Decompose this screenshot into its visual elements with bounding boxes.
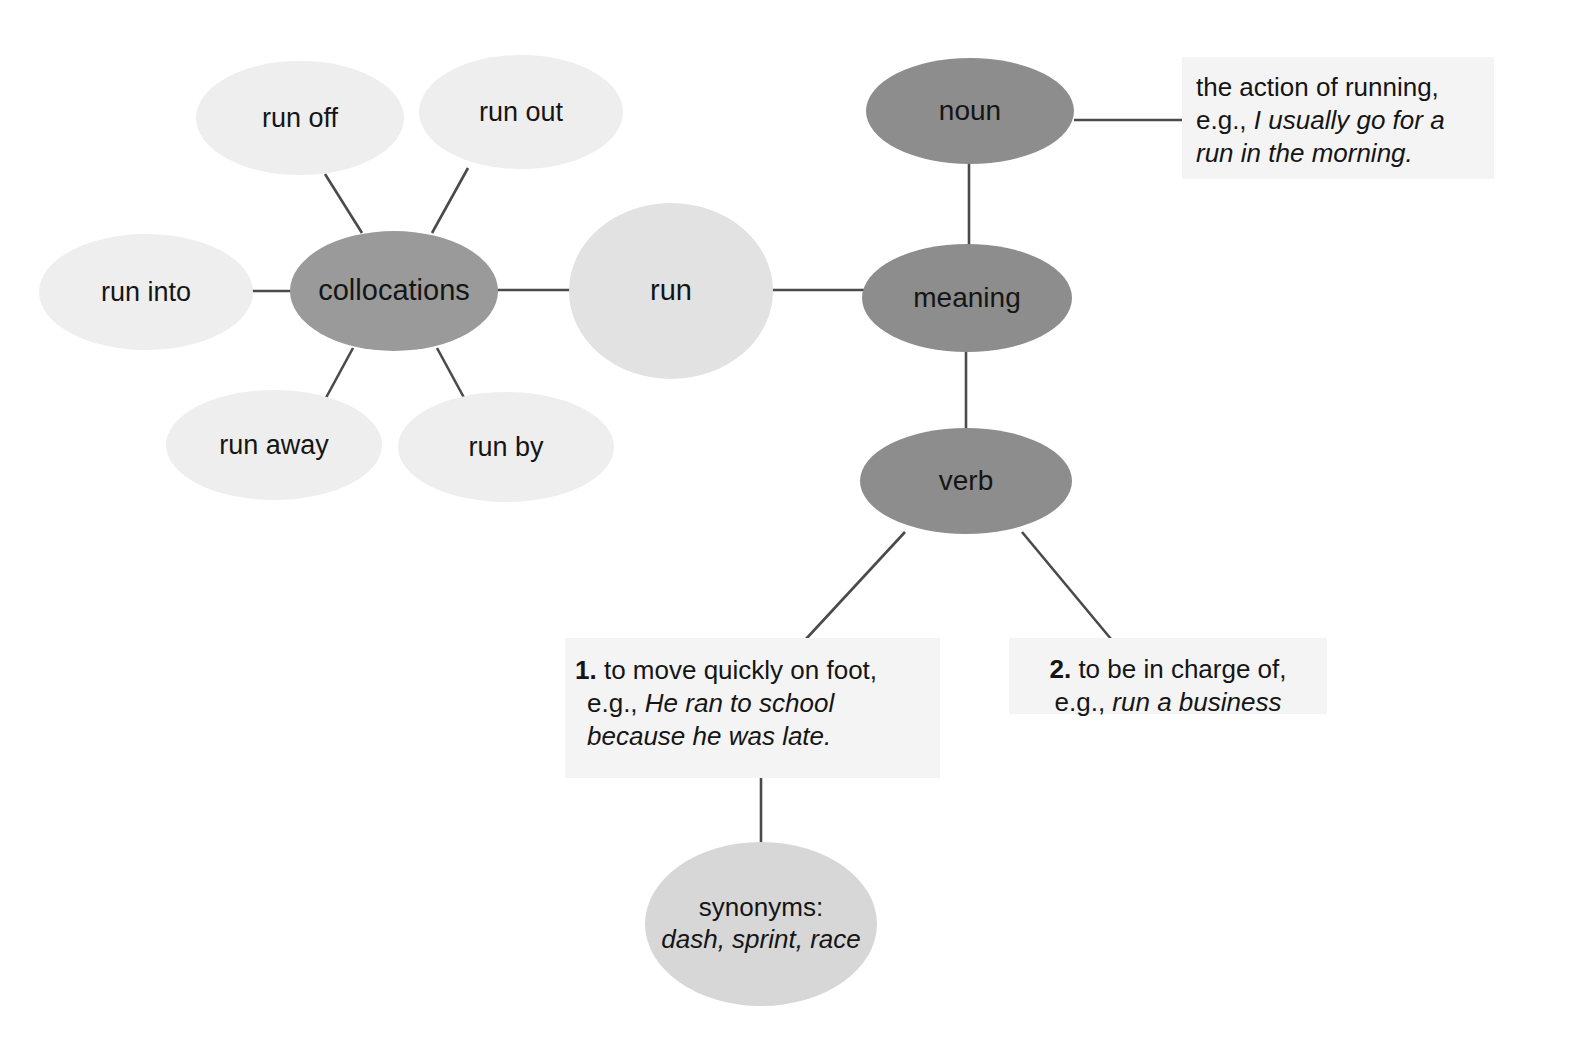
node-run-away-label: run away [213, 429, 335, 462]
edge-collocations-run-out [432, 168, 468, 233]
node-run-by[interactable]: run by [398, 392, 614, 502]
node-run-off[interactable]: run off [196, 61, 404, 175]
node-verb[interactable]: verb [860, 428, 1072, 534]
node-meaning[interactable]: meaning [862, 244, 1072, 352]
node-collocations[interactable]: collocations [290, 231, 498, 351]
node-synonyms-label: synonyms: [693, 892, 829, 924]
node-run-by-label: run by [462, 431, 549, 464]
word-map-diagram: run off run out run into run away run by… [0, 0, 1572, 1043]
verb-definition-2-number: 2. [1049, 654, 1071, 684]
node-meaning-label: meaning [907, 281, 1026, 315]
node-run-center-label: run [644, 273, 698, 308]
noun-definition-box: the action of running, e.g., I usually g… [1182, 57, 1494, 179]
edge-collocations-run-off [325, 174, 362, 233]
node-run-out[interactable]: run out [419, 55, 623, 169]
node-collocations-label: collocations [312, 273, 476, 308]
verb-definition-1-box: 1. to move quickly on foot, e.g., He ran… [565, 638, 940, 778]
node-run-into-label: run into [95, 276, 197, 309]
node-run-out-label: run out [473, 96, 569, 129]
node-synonyms-words: dash, sprint, race [655, 924, 866, 956]
node-run-off-label: run off [256, 102, 344, 135]
edge-verb-definition-2 [1022, 532, 1111, 639]
node-run-away[interactable]: run away [166, 390, 382, 500]
node-run-center[interactable]: run [569, 203, 773, 379]
node-verb-label: verb [933, 464, 999, 498]
node-noun[interactable]: noun [866, 58, 1074, 164]
node-run-into[interactable]: run into [39, 234, 253, 350]
node-noun-label: noun [933, 94, 1007, 128]
verb-definition-2-box: 2. to be in charge of, e.g., run a busin… [1009, 638, 1327, 714]
node-synonyms[interactable]: synonyms: dash, sprint, race [645, 842, 877, 1006]
verb-definition-1-number: 1. [575, 655, 597, 685]
verb-definition-2-example: run a business [1112, 687, 1281, 717]
edge-verb-definition-1 [806, 532, 905, 639]
